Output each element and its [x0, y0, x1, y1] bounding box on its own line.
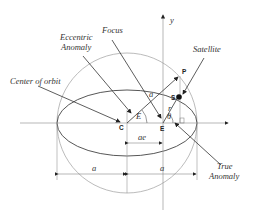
orbit-diagram: y Focus Eccentric Anomaly Satellite Cent… [0, 0, 254, 219]
eccentric-label-2: Anomaly [60, 42, 91, 52]
point-p: P [182, 68, 187, 75]
eccentric-pointer [83, 56, 131, 113]
angle-E-label: E [135, 111, 142, 121]
true-anomaly-label-1: True [217, 161, 233, 171]
right-angle-mark [180, 118, 184, 123]
angle-E-arc [142, 110, 147, 123]
point-e: E [160, 125, 165, 132]
eccentric-label-1: Eccentric [59, 32, 93, 42]
ae-label: ae [138, 132, 146, 142]
center-label: Center of orbit [10, 76, 61, 86]
a-right-label: a [160, 163, 164, 173]
satellite-label: Satellite [193, 44, 221, 54]
focus-label: Focus [101, 25, 123, 35]
focus-pointer [112, 40, 161, 118]
point-c: C [119, 124, 124, 131]
y-axis-label: y [169, 15, 174, 25]
true-anomaly-label-2: Anomaly [208, 171, 239, 181]
a-left-label: a [92, 163, 96, 173]
satellite-pointer [183, 58, 204, 94]
satellite-dot [176, 94, 182, 100]
radius-a-label: a [149, 89, 153, 99]
point-s: S [171, 94, 176, 101]
